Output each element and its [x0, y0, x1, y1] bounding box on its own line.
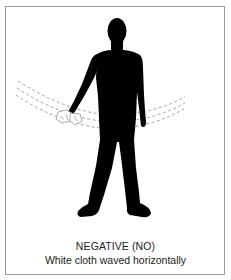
signal-description: White cloth waved horizontally [5, 254, 226, 266]
signal-figure-illustration [0, 0, 231, 280]
white-cloth-icon [56, 110, 82, 125]
signal-title: NEGATIVE (NO) [5, 240, 226, 252]
